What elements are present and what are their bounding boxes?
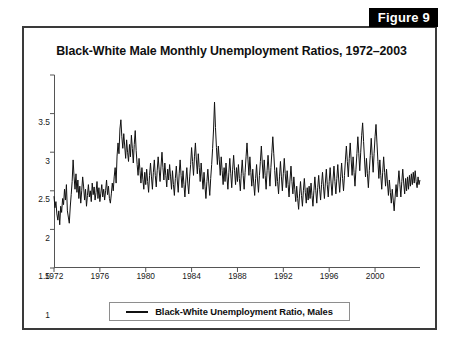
y-axis-tick-label: 3.5: [38, 117, 50, 127]
legend-series-label: Black-White Unemployment Ratio, Males: [155, 306, 333, 317]
chart-title: Black-White Male Monthly Unemployment Ra…: [24, 44, 439, 58]
plot-svg: [54, 75, 420, 268]
y-axis-tick-label: 3: [45, 156, 50, 166]
y-axis-tick-labels: 11.522.533.5: [24, 75, 50, 268]
x-axis-tick-label: 1984: [182, 271, 201, 281]
x-axis-tick-label: 1988: [228, 271, 247, 281]
series-line: [54, 102, 420, 225]
y-axis-tick-label: 2.5: [38, 194, 50, 204]
x-axis-tick-label: 1996: [320, 271, 339, 281]
chart-legend: Black-White Unemployment Ratio, Males: [109, 302, 350, 321]
chart-panel: Black-White Male Monthly Unemployment Ra…: [22, 26, 437, 330]
legend-line-swatch: [126, 311, 148, 313]
y-axis-tick-label: 2: [45, 233, 50, 243]
y-axis-tick-label: 1: [45, 310, 50, 320]
plot-area: [54, 75, 420, 268]
x-axis-tick-label: 1976: [91, 271, 110, 281]
figure-container: Figure 9 Black-White Male Monthly Unempl…: [0, 0, 456, 348]
x-axis-tick-label: 1992: [274, 271, 293, 281]
x-axis-tick-label: 1980: [136, 271, 155, 281]
figure-number-tab: Figure 9: [369, 8, 438, 27]
x-axis-tick-labels: 19721976198019841988199219962000: [54, 271, 420, 285]
x-axis-tick-label: 2000: [366, 271, 385, 281]
x-axis-tick-label: 1972: [45, 271, 64, 281]
